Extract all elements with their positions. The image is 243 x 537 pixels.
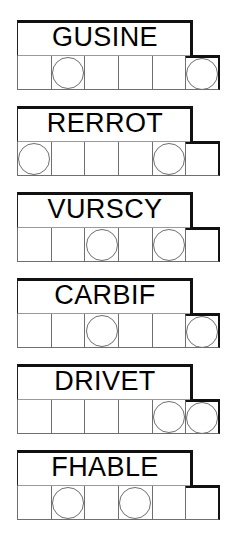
puzzle-row: DRIVET [17,364,225,434]
answer-cell[interactable] [185,55,220,90]
scrambled-word: FHABLE [17,450,193,486]
answer-cell[interactable] [118,227,153,262]
answer-cell-strip [17,141,225,176]
answer-cell[interactable] [84,55,119,90]
answer-cell-strip [17,227,225,262]
answer-cell[interactable] [152,485,187,520]
answer-cell[interactable] [51,399,86,434]
puzzle-row: CARBIF [17,278,225,348]
answer-cell[interactable] [152,55,187,90]
answer-cell[interactable] [51,485,86,520]
answer-cell[interactable] [185,399,220,434]
answer-cell-strip [17,485,225,520]
puzzle-row: GUSINE [17,20,225,90]
scrambled-word: VURSCY [17,192,193,228]
answer-cell-strip [17,313,225,348]
answer-cell[interactable] [84,399,119,434]
answer-cell[interactable] [185,485,220,520]
answer-cell[interactable] [51,55,86,90]
scrambled-word: RERROT [17,106,193,142]
circle-marker-icon [186,316,218,348]
answer-cell[interactable] [118,399,153,434]
answer-cell[interactable] [17,55,52,90]
answer-cell[interactable] [118,141,153,176]
circle-marker-icon [153,401,185,433]
answer-cell[interactable] [185,313,220,348]
answer-cell[interactable] [84,485,119,520]
circle-marker-icon [86,229,118,261]
answer-cell[interactable] [51,227,86,262]
circle-marker-icon [52,487,84,519]
circle-marker-icon [86,315,118,347]
puzzle-row: FHABLE [17,450,225,520]
scrambled-word: DRIVET [17,364,193,400]
answer-cell-strip [17,399,225,434]
word-scramble-worksheet: GUSINERERROTVURSCYCARBIFDRIVETFHABLE [0,0,243,537]
answer-cell[interactable] [185,227,220,262]
puzzle-row: RERROT [17,106,225,176]
scrambled-word: GUSINE [17,20,193,56]
circle-marker-icon [153,229,185,261]
answer-cell[interactable] [152,399,187,434]
answer-cell[interactable] [51,313,86,348]
answer-cell[interactable] [51,141,86,176]
answer-cell[interactable] [84,227,119,262]
answer-cell[interactable] [17,227,52,262]
circle-marker-icon [186,58,218,90]
answer-cell[interactable] [17,141,52,176]
answer-cell[interactable] [185,141,220,176]
puzzle-row: VURSCY [17,192,225,262]
answer-cell[interactable] [17,399,52,434]
circle-marker-icon [18,143,50,175]
circle-marker-icon [119,487,151,519]
answer-cell[interactable] [17,313,52,348]
scrambled-word: CARBIF [17,278,193,314]
answer-cell[interactable] [152,313,187,348]
answer-cell[interactable] [17,485,52,520]
answer-cell-strip [17,55,225,90]
answer-cell[interactable] [118,55,153,90]
answer-cell[interactable] [152,227,187,262]
answer-cell[interactable] [152,141,187,176]
answer-cell[interactable] [84,313,119,348]
answer-cell[interactable] [118,313,153,348]
answer-cell[interactable] [118,485,153,520]
circle-marker-icon [52,57,84,89]
circle-marker-icon [186,402,218,434]
answer-cell[interactable] [84,141,119,176]
circle-marker-icon [153,143,185,175]
